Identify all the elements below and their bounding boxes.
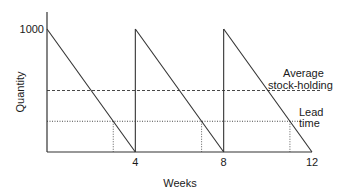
y-axis-label: Quantity [14,71,26,112]
reference-lines [47,91,320,153]
average-stock-holding-label: stock-holding [268,79,333,91]
x-tick-label: 4 [132,156,138,168]
x-tick-label: 8 [221,156,227,168]
x-axis-label: Weeks [163,177,197,189]
stock-chart: 48121000WeeksQuantity Averagestock-holdi… [0,0,349,196]
x-tick-label: 12 [306,156,318,168]
labels: Averagestock-holdingLeadtime [268,67,333,130]
axes: 48121000WeeksQuantity [14,12,318,189]
lead-time-label: time [299,117,320,129]
y-tick-label: 1000 [20,23,44,35]
average-stock-holding-label: Average [283,67,324,79]
